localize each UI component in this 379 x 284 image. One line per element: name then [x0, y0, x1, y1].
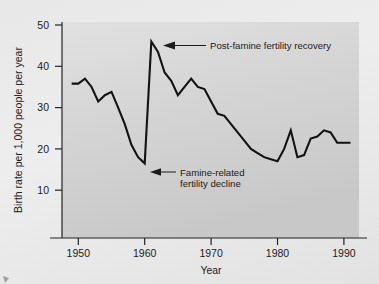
x-axis-title: Year	[200, 264, 222, 276]
x-tick-label-1990: 1990	[332, 247, 356, 259]
annotation-decline-text-line1: Famine-related	[180, 167, 245, 178]
x-axis-ticks	[78, 238, 344, 245]
annotation-recovery-text: Post-famine fertility recovery	[210, 40, 331, 51]
y-tick-label-10: 10	[37, 184, 49, 196]
plot-area-background	[62, 22, 359, 238]
annotation-decline-text-line2: fertility decline	[180, 178, 241, 189]
y-tick-label-30: 30	[37, 101, 49, 113]
y-tick-label-20: 20	[37, 143, 49, 155]
x-tick-label-1950: 1950	[67, 247, 91, 259]
x-tick-label-1960: 1960	[133, 247, 157, 259]
y-axis-ticks	[55, 25, 62, 190]
x-tick-label-1980: 1980	[266, 247, 290, 259]
y-tick-label-50: 50	[37, 19, 49, 31]
y-tick-label-40: 40	[37, 60, 49, 72]
y-axis-title: Birth rate per 1,000 people per year	[12, 47, 24, 213]
x-tick-label-1970: 1970	[199, 247, 223, 259]
chart-figure: 50 40 30 20 10 1950 1960 1970 1980 1990 …	[0, 0, 379, 284]
chart-canvas: 50 40 30 20 10 1950 1960 1970 1980 1990 …	[0, 0, 379, 284]
